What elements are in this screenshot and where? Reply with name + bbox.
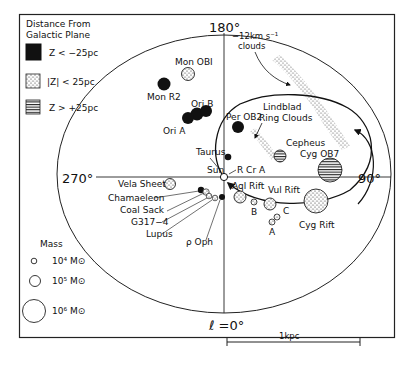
galactic-plane-diagram: Distance From Galactic Plane Z < −25pc |… (0, 0, 405, 366)
svg-text:Aql Rift: Aql Rift (232, 181, 265, 191)
scale-bar: 1kpc (227, 331, 360, 346)
object-a: A (269, 219, 276, 237)
object-cyg-rift: Cyg Rift (299, 189, 335, 230)
svg-text:Cyg OB7: Cyg OB7 (300, 149, 339, 159)
stippled-swatch-icon (26, 74, 40, 88)
legend-z-distance: Distance From Galactic Plane Z < −25pc |… (26, 19, 98, 114)
legend-mass-item-0: 10⁴ M⊙ (52, 256, 85, 266)
svg-text:Ori A: Ori A (163, 126, 186, 136)
clouds-12-label-1: −12km s⁻¹ (232, 31, 278, 41)
solid-black-swatch-icon (26, 44, 41, 60)
striped-swatch-icon (26, 100, 40, 114)
svg-text:Sun: Sun (207, 165, 224, 175)
svg-text:A: A (269, 227, 276, 237)
svg-text:Vela Sheet: Vela Sheet (118, 179, 166, 189)
lindblad-clouds-band (250, 128, 277, 160)
axis-label-0: ℓ =0° (208, 318, 244, 333)
legend-z-item-2: Z > +25pc (49, 103, 98, 113)
svg-text:Cepheus: Cepheus (286, 138, 325, 148)
mass-1e5-circle-icon (30, 276, 41, 287)
svg-text:Cyg Rift: Cyg Rift (299, 220, 335, 230)
scale-bar-label: 1kpc (279, 331, 300, 341)
lindblad-label-1: Lindblad (263, 102, 301, 112)
mass-1e6-circle-icon (23, 300, 46, 323)
svg-text:Vul Rift: Vul Rift (268, 185, 300, 195)
lindblad-label-2: Ring Clouds (259, 113, 313, 123)
object-vela-sheet: Vela Sheet (118, 179, 176, 190)
svg-text:Mon R2: Mon R2 (147, 92, 181, 102)
svg-text:Per OB2: Per OB2 (226, 112, 262, 122)
mass-1e4-circle-icon (31, 258, 37, 264)
svg-text:Mon OBI: Mon OBI (175, 57, 213, 67)
object-ori-a: Ori A (163, 112, 194, 136)
svg-text:C: C (283, 206, 289, 216)
svg-text:Taurus: Taurus (195, 147, 226, 157)
object-mon-ob1: Mon OBI (175, 57, 213, 81)
svg-text:B: B (251, 207, 257, 217)
object-b: B (251, 199, 257, 217)
object-lupus: Lupus (146, 229, 173, 239)
svg-text:R Cr A: R Cr A (237, 165, 266, 175)
southern-objects-cluster: Chamaeleon Coal Sack G317−4 Lupus ρ Oph (108, 187, 225, 247)
legend-z-title-2: Galactic Plane (26, 30, 90, 40)
object-r-cr-a: R Cr A (229, 165, 266, 175)
legend-z-item-0: Z < −25pc (49, 48, 98, 58)
object-c: C (274, 206, 289, 220)
object-rho-oph: ρ Oph (186, 237, 213, 247)
clouds-12-label-2: clouds (238, 41, 266, 51)
legend-z-title-1: Distance From (26, 19, 91, 29)
object-chamaeleon: Chamaeleon (108, 193, 165, 203)
svg-text:Ori B: Ori B (191, 99, 213, 109)
object-mon-r2: Mon R2 (147, 78, 181, 103)
legend-mass-item-1: 10⁵ M⊙ (52, 276, 85, 286)
object-sun: Sun (207, 165, 228, 181)
object-coal-sack: Coal Sack (120, 205, 165, 215)
legend-z-item-1: |Z| < 25pc (47, 77, 95, 87)
legend-mass: Mass 10⁴ M⊙ 10⁵ M⊙ 10⁶ M⊙ (23, 239, 86, 323)
axis-label-270: 270° (62, 171, 93, 186)
legend-mass-title: Mass (40, 239, 63, 249)
object-g317: G317−4 (131, 217, 169, 227)
legend-mass-item-2: 10⁶ M⊙ (52, 306, 85, 316)
